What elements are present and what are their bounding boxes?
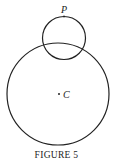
point-p-label: P — [60, 4, 67, 15]
point-p-dot — [63, 16, 65, 18]
center-c-dot — [58, 93, 60, 95]
figure-diagram: P C — [0, 0, 113, 164]
small-circle — [43, 17, 86, 60]
figure-caption: FIGURE 5 — [0, 150, 113, 160]
center-c-label: C — [63, 89, 70, 100]
